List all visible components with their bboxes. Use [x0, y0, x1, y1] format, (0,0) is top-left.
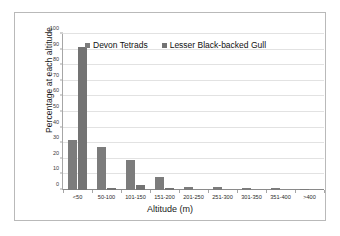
chart-figure: Percentage at each altitude 010203040506… [0, 0, 340, 236]
legend-label: Lesser Black-backed Gull [170, 40, 266, 50]
y-tick-label: 20 [53, 150, 59, 156]
figure-frame: Percentage at each altitude 010203040506… [14, 12, 326, 221]
bar [155, 177, 164, 190]
y-tick-label: 80 [53, 56, 59, 62]
y-tick-label: 50 [53, 103, 59, 109]
bar-group [179, 34, 208, 190]
bar-group [266, 34, 295, 190]
chart-legend: Devon TetradsLesser Black-backed Gull [85, 40, 266, 50]
x-tick-mark [295, 190, 296, 193]
x-tick-label: 201-250 [179, 194, 208, 200]
x-tick-label: >400 [295, 194, 324, 200]
bar-group [121, 34, 150, 190]
bar-group [208, 34, 237, 190]
x-tick-mark [63, 190, 64, 193]
x-tick-mark [179, 190, 180, 193]
bar-group [295, 34, 324, 190]
x-axis-tick-labels: <5050-100101-150151-200201-250251-300301… [63, 194, 324, 200]
y-tick-label: 40 [53, 119, 59, 125]
plot-area-wrapper: 0102030405060708090100 <5050-100101-1501… [62, 34, 324, 190]
bar-groups [63, 34, 324, 190]
bar [78, 47, 87, 190]
x-tick-mark [121, 190, 122, 193]
y-tick-label: 60 [53, 87, 59, 93]
y-tick-label: 0 [56, 181, 59, 187]
legend-entry: Devon Tetrads [85, 40, 148, 50]
y-tick-label: 70 [53, 72, 59, 78]
bar-group [150, 34, 179, 190]
y-axis-title: Percentage at each altitude [44, 10, 54, 150]
x-tick-label: 301-350 [237, 194, 266, 200]
y-tick-label: 100 [50, 25, 59, 31]
legend-swatch-icon [85, 43, 90, 48]
x-tick-label: 50-100 [92, 194, 121, 200]
legend-label: Devon Tetrads [93, 40, 148, 50]
legend-entry: Lesser Black-backed Gull [162, 40, 266, 50]
x-tick-label: 251-300 [208, 194, 237, 200]
y-tick-label: 90 [53, 41, 59, 47]
legend-swatch-icon [162, 43, 167, 48]
bar-group [237, 34, 266, 190]
plot-area: 0102030405060708090100 <5050-100101-1501… [62, 34, 324, 190]
x-tick-mark [92, 190, 93, 193]
bar-group [63, 34, 92, 190]
x-axis-title: Altitude (m) [15, 204, 325, 214]
x-tick-label: <50 [63, 194, 92, 200]
x-tick-mark [208, 190, 209, 193]
bar [126, 160, 135, 190]
bar-group [92, 34, 121, 190]
x-tick-mark [324, 190, 325, 193]
x-tick-mark [150, 190, 151, 193]
x-tick-label: 151-200 [150, 194, 179, 200]
x-tick-mark [266, 190, 267, 193]
bar [97, 147, 106, 190]
y-tick-label: 10 [53, 165, 59, 171]
x-tick-mark [237, 190, 238, 193]
bar [68, 140, 77, 190]
y-tick-label: 30 [53, 134, 59, 140]
x-tick-label: 351-400 [266, 194, 295, 200]
x-tick-label: 101-150 [121, 194, 150, 200]
